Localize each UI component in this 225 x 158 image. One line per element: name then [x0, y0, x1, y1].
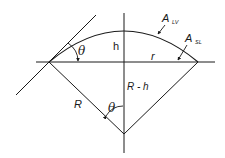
area-sl-main: A	[184, 32, 192, 44]
area-sl-label: A SL	[184, 32, 202, 45]
height-label: h	[113, 40, 119, 52]
base-radius-label: r	[151, 50, 156, 62]
spherical-cap-diagram: θ h r R R - h θ A LV A SL	[0, 0, 225, 158]
area-lv-leader	[158, 25, 165, 34]
radius-line-right	[124, 62, 198, 134]
radius-line-left	[49, 62, 124, 134]
contact-angle-label-top: θ	[78, 44, 86, 58]
area-lv-subscript: LV	[172, 19, 180, 25]
area-lv-main: A	[161, 12, 169, 24]
center-offset-label: R - h	[127, 81, 149, 92]
contact-angle-label-bottom: θ	[108, 101, 116, 115]
area-lv-label: A LV	[161, 12, 180, 25]
sphere-radius-label: R	[74, 98, 82, 110]
area-sl-subscript: SL	[195, 39, 202, 45]
